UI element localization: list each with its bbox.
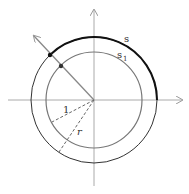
inner-circle-subscript: 1 — [123, 55, 127, 63]
inner-intersection-point — [59, 64, 63, 68]
inner-radius-dashed — [52, 100, 94, 122]
outer-radius-label: r — [77, 126, 83, 137]
inner-circle-label: s — [117, 49, 122, 60]
concentric-circles-diagram: s s 1 1 r — [0, 0, 189, 194]
inner-radius-label: 1 — [63, 104, 69, 115]
outer-circle-label: s — [124, 33, 129, 44]
outer-intersection-point — [48, 53, 52, 57]
